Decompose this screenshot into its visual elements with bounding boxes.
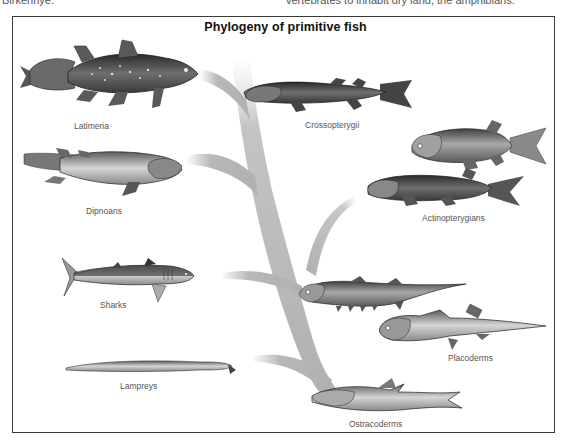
fish-ostracoderm	[312, 378, 462, 411]
label-crossopterygii: Crossopterygii	[305, 120, 359, 130]
fish-acanthodian	[299, 276, 466, 312]
fish-actinopterygian-lower	[368, 168, 524, 206]
fish-latimeria	[20, 40, 198, 108]
label-dipnoans: Dipnoans	[86, 206, 122, 216]
label-sharks: Sharks	[100, 300, 126, 310]
fish-shark	[62, 258, 194, 302]
tree-branches	[186, 58, 356, 400]
label-lampreys: Lampreys	[120, 381, 157, 391]
label-ostracoderms: Ostracoderms	[349, 419, 402, 429]
fish-actinopterygian-upper	[412, 120, 546, 170]
figure-title: Phylogeny of primitive fish	[0, 20, 571, 34]
label-placoderms: Placoderms	[448, 353, 493, 363]
fish-crossopterygii	[244, 78, 412, 112]
fish-placoderm	[380, 304, 546, 350]
fish-dipnoan	[24, 148, 182, 196]
label-latimeria: Latimeria	[74, 121, 109, 131]
fish-lamprey	[66, 361, 236, 374]
label-actinopterygians: Actinopterygians	[422, 213, 485, 223]
phylogeny-tree-illustration	[0, 0, 571, 441]
